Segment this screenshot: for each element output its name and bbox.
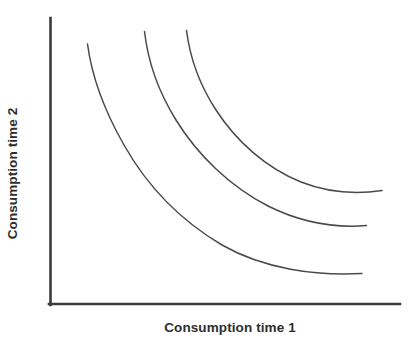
indifference-curve-chart: Consumption time 1 Consumption time 2 xyxy=(0,0,420,347)
indifference-curve-2 xyxy=(145,32,367,227)
x-axis-label: Consumption time 1 xyxy=(0,320,420,335)
indifference-curve-1 xyxy=(88,44,363,274)
plot-area xyxy=(0,0,420,347)
y-axis-label: Consumption time 2 xyxy=(0,0,60,347)
